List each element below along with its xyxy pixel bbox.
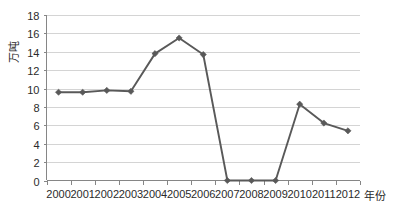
x-tick-label: 2004 xyxy=(143,188,167,200)
x-tick-label: 2009 xyxy=(263,188,287,200)
x-tick-label: 2005 xyxy=(167,188,191,200)
x-tick-label: 2006 xyxy=(191,188,215,200)
x-tick-label: 2000 xyxy=(46,188,70,200)
y-tick-label: 16 xyxy=(27,28,39,40)
y-tick-label: 10 xyxy=(27,84,39,96)
x-tick-label: 2002 xyxy=(95,188,119,200)
y-tick-label: 18 xyxy=(27,10,39,22)
x-tick-label: 2007 xyxy=(215,188,239,200)
line-chart: 024681012141618 200020012002200320042005… xyxy=(0,0,393,215)
y-tick-label: 8 xyxy=(33,102,39,114)
y-tick-label: 4 xyxy=(33,139,39,151)
chart-canvas: 024681012141618 200020012002200320042005… xyxy=(0,0,393,215)
y-axis-title: 万吨 xyxy=(8,41,20,63)
x-tick-label: 2003 xyxy=(119,188,143,200)
y-tick-label: 14 xyxy=(27,47,39,59)
y-tick-label: 2 xyxy=(33,157,39,169)
x-tick-labels-group: 2000200120022003200420052006200720082009… xyxy=(46,188,360,200)
x-tick-label: 2008 xyxy=(239,188,263,200)
y-tick-label: 6 xyxy=(33,120,39,132)
y-tick-label: 0 xyxy=(33,176,39,188)
x-axis-title: 年份 xyxy=(364,189,386,202)
y-tick-label: 12 xyxy=(27,65,39,77)
x-tick-label: 2012 xyxy=(336,188,360,200)
x-tick-label: 2010 xyxy=(287,188,311,200)
x-tick-label: 2001 xyxy=(70,188,94,200)
x-tick-label: 2011 xyxy=(312,188,336,200)
